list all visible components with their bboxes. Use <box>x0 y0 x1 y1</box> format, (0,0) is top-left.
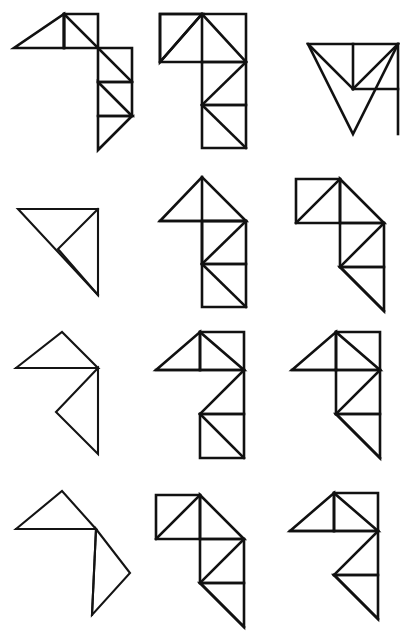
tangram-figure-stair-descend-shape <box>138 477 276 634</box>
figure-cell-r3c1 <box>0 318 138 477</box>
tangram-figure-tee-shape-seven-piece <box>138 0 276 159</box>
tangram-figure-pinwheel-seven-piece <box>0 0 138 159</box>
figure-cell-r4c1 <box>0 477 138 634</box>
tangram-figure-arrow-up-shape <box>138 159 276 318</box>
figure-cell-r1c2 <box>138 0 276 159</box>
tangram-figure-seven-pointed-tail-shape <box>276 477 413 634</box>
figure-cell-r1c3 <box>276 0 413 159</box>
tangram-figure-zigzag-stair-shape <box>276 159 413 318</box>
figure-cell-r2c2 <box>138 159 276 318</box>
tangram-figure-outline-flag-shape <box>0 477 138 634</box>
figure-cell-r4c2 <box>138 477 276 634</box>
tangram-figure-outline-seven-arrow <box>0 318 138 477</box>
tangram-figure-plain-right-triangle <box>0 159 138 318</box>
figure-cell-r4c3 <box>276 477 413 634</box>
figure-cell-r3c3 <box>276 318 413 477</box>
tangram-figure-corner-triangle-seven-piece <box>276 0 413 159</box>
figure-cell-r1c1 <box>0 0 138 159</box>
figure-cell-r2c3 <box>276 159 413 318</box>
tangram-figure-grid <box>0 0 413 634</box>
figure-cell-r3c2 <box>138 318 276 477</box>
tangram-figure-seven-digit-shape <box>138 318 276 477</box>
figure-cell-r2c1 <box>0 159 138 318</box>
tangram-figure-flag-shape <box>276 318 413 477</box>
